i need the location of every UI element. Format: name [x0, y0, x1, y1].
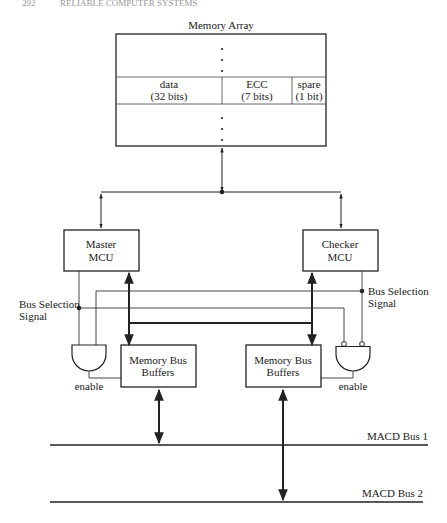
field-data-size: (32 bits)	[151, 90, 188, 103]
buffers-left-line1: Memory Bus	[129, 354, 187, 366]
bus-selection-left-line1: Bus Selection	[19, 298, 80, 310]
field-ecc-size: (7 bits)	[241, 90, 273, 103]
field-spare-name: spare	[297, 78, 320, 90]
enable-right: enable	[339, 380, 368, 392]
master-mcu: Master MCU	[64, 230, 139, 271]
bus-selection-left-line2: Signal	[19, 310, 47, 322]
ellipsis-bottom	[221, 117, 223, 141]
memory-bus-buffers-right: Memory Bus Buffers	[246, 345, 321, 387]
macd-bus-1-label: MACD Bus 1	[367, 430, 428, 442]
buffers-right-line1: Memory Bus	[254, 354, 312, 366]
memory-array: Memory Array data (32 bits) ECC (7 bits)…	[116, 19, 326, 146]
checker-line2: MCU	[327, 251, 352, 263]
field-spare-size: (1 bit)	[295, 90, 323, 103]
bus-selection-wiring	[77, 271, 365, 345]
enable-left: enable	[75, 380, 104, 392]
running-title: RELIABLE COMPUTER SYSTEMS	[60, 0, 198, 8]
buffers-left-line2: Buffers	[142, 366, 175, 378]
memory-bus-buffers-left: Memory Bus Buffers	[121, 345, 196, 387]
fault-tolerant-memory-diagram: 292 RELIABLE COMPUTER SYSTEMS Memory Arr…	[0, 0, 447, 523]
bus-selection-right-line2: Signal	[368, 297, 396, 309]
bus-selection-right-line1: Bus Selection	[368, 285, 429, 297]
internal-data-bus	[129, 273, 312, 345]
macd-bus-2: MACD Bus 2	[50, 487, 423, 502]
macd-bus-2-label: MACD Bus 2	[362, 487, 423, 499]
field-data-name: data	[160, 78, 178, 90]
checker-mcu: Checker MCU	[303, 230, 378, 271]
memory-array-title: Memory Array	[188, 19, 254, 31]
and-gate-left	[72, 345, 121, 378]
ellipsis-top	[221, 48, 223, 72]
master-line2: MCU	[88, 251, 113, 263]
master-line1: Master	[86, 238, 117, 250]
page-number: 292	[22, 0, 36, 8]
checker-line1: Checker	[322, 238, 359, 250]
memory-interconnect	[101, 148, 341, 228]
field-ecc-name: ECC	[246, 78, 267, 90]
and-gate-right-inverted	[321, 342, 370, 378]
macd-bus-1: MACD Bus 1	[50, 430, 428, 445]
buffers-right-line2: Buffers	[267, 366, 300, 378]
